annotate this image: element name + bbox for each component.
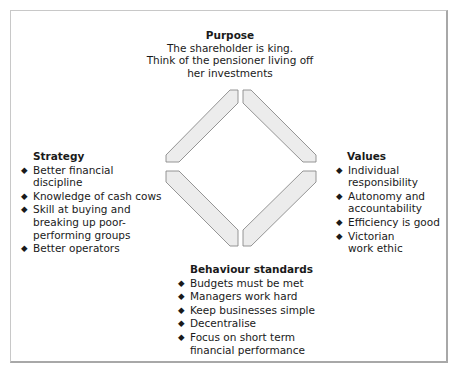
list-item: ◆Decentralise — [177, 317, 337, 330]
diamond-bullet-icon: ◆ — [336, 230, 343, 243]
list-item: ◆Autonomy and accountability — [335, 190, 445, 215]
purpose-line: The shareholder is king. — [120, 42, 340, 55]
diamond-bullet-icon: ◆ — [21, 164, 28, 177]
list-item: ◆Focus on short term financial performan… — [177, 331, 337, 356]
purpose-block: Purpose The shareholder is king. Think o… — [120, 29, 340, 79]
list-item: ◆Skill at buying and breaking up poor-pe… — [20, 203, 170, 241]
strategy-block: Strategy ◆Better financial discipline ◆K… — [20, 150, 170, 256]
values-block: Values ◆Individual responsibility ◆Auton… — [335, 150, 445, 256]
connector-bar-top-right — [243, 90, 316, 162]
diamond-bullet-icon: ◆ — [178, 331, 185, 344]
connector-bar-bottom-right — [243, 171, 316, 246]
behaviour-standards-block: Behaviour standards ◆Budgets must be met… — [177, 263, 337, 357]
diamond-bullet-icon: ◆ — [178, 277, 185, 290]
connector-bar-top-left — [166, 90, 238, 162]
connector-bar-bottom-left — [166, 171, 238, 246]
strategy-list: ◆Better financial discipline ◆Knowledge … — [20, 164, 170, 255]
diamond-bullet-icon: ◆ — [21, 203, 28, 216]
list-item: ◆Efficiency is good — [335, 216, 445, 229]
diamond-bullet-icon: ◆ — [21, 242, 28, 255]
purpose-title: Purpose — [120, 29, 340, 42]
values-title: Values — [347, 150, 445, 163]
list-item: ◆Managers work hard — [177, 290, 337, 303]
diamond-bullet-icon: ◆ — [336, 190, 343, 203]
values-list: ◆Individual responsibility ◆Autonomy and… — [335, 164, 445, 255]
list-item: ◆Budgets must be met — [177, 277, 337, 290]
behaviour-list: ◆Budgets must be met ◆Managers work hard… — [177, 277, 337, 357]
diamond-bullet-icon: ◆ — [336, 164, 343, 177]
diamond-bullet-icon: ◆ — [336, 216, 343, 229]
behaviour-title: Behaviour standards — [190, 263, 337, 276]
list-item: ◆Individual responsibility — [335, 164, 445, 189]
list-item: ◆Better financial discipline — [20, 164, 170, 189]
list-item: ◆Keep businesses simple — [177, 304, 337, 317]
diamond-bullet-icon: ◆ — [178, 290, 185, 303]
list-item: ◆Knowledge of cash cows — [20, 190, 170, 203]
purpose-line: Think of the pensioner living off — [120, 54, 340, 67]
diamond-bullet-icon: ◆ — [178, 317, 185, 330]
diamond-bullet-icon: ◆ — [178, 304, 185, 317]
strategy-title: Strategy — [33, 150, 170, 163]
list-item: ◆Better operators — [20, 242, 170, 255]
list-item: ◆Victorian work ethic — [335, 230, 445, 255]
purpose-line: her investments — [120, 67, 340, 80]
diamond-bullet-icon: ◆ — [21, 190, 28, 203]
